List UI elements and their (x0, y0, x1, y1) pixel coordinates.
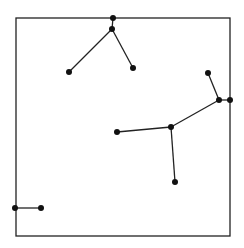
edge-B-C (69, 29, 112, 72)
node-I (114, 129, 120, 135)
node-L (38, 205, 44, 211)
edge-F-H (171, 100, 219, 127)
edges (15, 18, 230, 208)
node-G (227, 97, 233, 103)
node-B (109, 26, 115, 32)
diagram-canvas (0, 0, 244, 248)
node-E (205, 70, 211, 76)
edge-B-D (112, 29, 133, 68)
edge-H-I (117, 127, 171, 132)
node-C (66, 69, 72, 75)
node-K (12, 205, 18, 211)
node-F (216, 97, 222, 103)
node-D (130, 65, 136, 71)
node-A (110, 15, 116, 21)
edge-E-F (208, 73, 219, 100)
edge-H-J (171, 127, 175, 182)
node-J (172, 179, 178, 185)
node-H (168, 124, 174, 130)
nodes (12, 15, 233, 211)
